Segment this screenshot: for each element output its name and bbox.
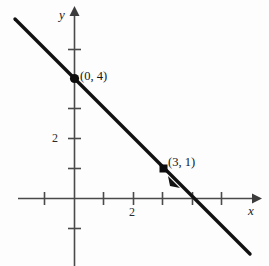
point-marker-a [70,74,79,83]
y-axis-arrowhead [70,6,80,16]
coordinate-plane-svg [0,0,269,266]
x-axis-tick-label-2: 2 [129,206,135,218]
point-label-0-4: (0, 4) [80,70,107,83]
point-marker-b [160,165,168,173]
y-axis-label: y [59,8,65,21]
y-axis-tick-label-2: 2 [52,132,58,144]
point-label-3-1: (3, 1) [168,156,195,169]
x-axis-arrowhead [252,194,262,204]
x-axis-label: x [248,204,254,217]
graph-figure: y x 2 2 (0, 4) (3, 1) [0,0,269,266]
